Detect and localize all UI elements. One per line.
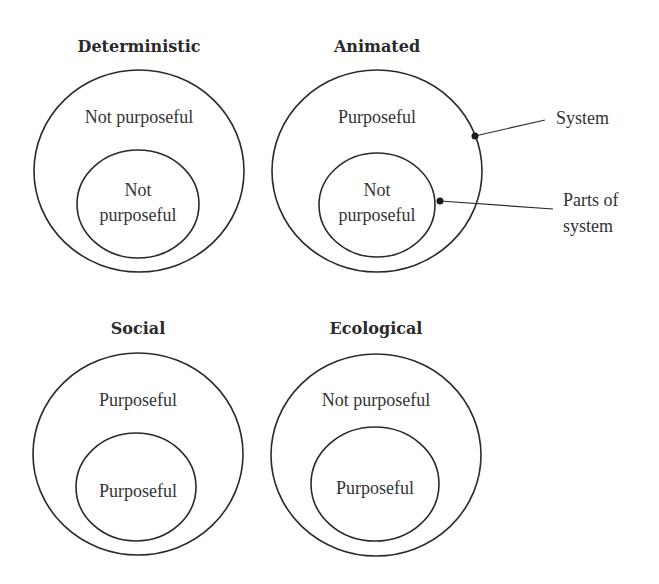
panel-title: Animated xyxy=(333,37,420,56)
panel-title: Social xyxy=(111,319,166,338)
system-pointer-dot xyxy=(472,133,479,140)
parts-callout-label-line2: system xyxy=(563,216,613,236)
system-circle xyxy=(33,353,243,555)
system-circle xyxy=(34,70,244,272)
panel-animated: Animated Purposeful Not purposeful Syste… xyxy=(272,37,619,272)
parts-pointer-dot xyxy=(437,198,444,205)
system-label: Not purposeful xyxy=(85,107,193,127)
panel-deterministic: Deterministic Not purposeful Not purpose… xyxy=(34,37,244,272)
parts-label: Purposeful xyxy=(99,481,177,501)
parts-circle xyxy=(77,150,199,258)
system-callout-label: System xyxy=(556,108,609,128)
panel-title: Ecological xyxy=(330,319,423,338)
system-circle xyxy=(272,70,482,272)
parts-label-line1: Not xyxy=(125,180,152,200)
system-leader-line xyxy=(475,120,545,136)
system-types-diagram: Deterministic Not purposeful Not purpose… xyxy=(0,0,659,584)
parts-callout-label-line1: Parts of xyxy=(563,190,619,210)
parts-leader-line xyxy=(440,201,553,209)
parts-label-line1: Not xyxy=(364,180,391,200)
panel-social: Social Purposeful Purposeful xyxy=(33,319,243,555)
parts-label-line2: purposeful xyxy=(339,205,416,225)
panel-ecological: Ecological Not purposeful Purposeful xyxy=(271,319,481,556)
parts-label-line2: purposeful xyxy=(100,205,177,225)
system-label: Purposeful xyxy=(99,390,177,410)
system-label: Purposeful xyxy=(338,107,416,127)
parts-label: Purposeful xyxy=(336,478,414,498)
system-label: Not purposeful xyxy=(322,390,430,410)
system-circle xyxy=(271,354,481,556)
panel-title: Deterministic xyxy=(78,37,201,56)
